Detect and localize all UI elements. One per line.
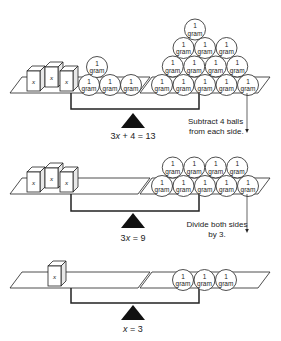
ball-label-number: 1 [203,41,207,48]
gram-ball: 1gram [205,56,226,77]
ball-label-number: 1 [182,78,186,85]
ball-label-unit: gram [187,67,202,75]
gram-ball: 1gram [195,176,216,197]
scale-stage-3: x1gram1gram1gram [10,261,270,320]
ball-label-unit: gram [176,85,191,93]
ball-label-unit: gram [197,280,212,288]
equation-stage-2: 3x = 9 [93,233,173,243]
gram-ball: 1gram [227,56,248,77]
equation-stage-3: x = 3 [93,324,173,334]
ball-label-number: 1 [160,179,164,186]
gram-ball: 1gram [184,157,205,178]
diagram-canvas: xxx1gram1gram1gram1gram1gram1gram1gram1g… [0,0,281,341]
gram-ball: 1gram [100,75,121,96]
gram-ball: 1gram [227,157,248,178]
ball-label-unit: gram [219,280,234,288]
ball-label-unit: gram [103,85,118,93]
ball-label-unit: gram [165,67,180,75]
eq3-rest: = 3 [128,324,143,334]
ball-label-number: 1 [224,273,228,280]
step1-line2: from each side. [188,127,244,137]
gram-ball: 1gram [216,176,237,197]
scale-beam [71,194,199,211]
ball-label-number: 1 [95,60,99,67]
ball-label-unit: gram [219,48,234,56]
ball-label-unit: gram [208,168,223,176]
gram-ball: 1gram [173,38,194,59]
balance-scale-diagram: xxx1gram1gram1gram1gram1gram1gram1gram1g… [0,0,281,341]
ball-label-unit: gram [230,67,245,75]
ball-label-unit: gram [176,48,191,56]
gram-ball: 1gram [195,38,216,59]
left-pan [10,272,150,288]
ball-label-number: 1 [225,41,229,48]
ball-label-unit: gram [198,85,213,93]
ball-label-number: 1 [182,41,186,48]
ball-label-unit: gram [241,85,256,93]
ball-label-unit: gram [230,168,245,176]
gram-ball: 1gram [162,157,183,178]
ball-label-number: 1 [171,59,175,66]
gram-ball: 1gram [184,56,205,77]
gram-ball: 1gram [152,176,173,197]
ball-label-number: 1 [160,78,164,85]
gram-ball: 1gram [216,75,237,96]
gram-ball: 1gram [195,75,216,96]
x-box: x [60,167,78,192]
box-side [73,167,78,192]
ball-label-unit: gram [188,30,203,38]
step-note-subtract: Subtract 4 balls from each side. [188,117,244,137]
gram-ball: 1gram [205,157,226,178]
ball-label-unit: gram [155,85,170,93]
scale-stage-1: xxx1gram1gram1gram1gram1gram1gram1gram1g… [10,19,270,133]
ball-label-number: 1 [203,78,207,85]
fulcrum-triangle [121,305,145,320]
ball-label-number: 1 [129,78,133,85]
ball-label-unit: gram [198,48,213,56]
ball-label-number: 1 [246,179,250,186]
gram-ball: 1gram [194,270,215,291]
step2-line1: Divide both sides [185,220,249,230]
ball-label-number: 1 [235,160,239,167]
ball-label-unit: gram [176,280,191,288]
ball-label-unit: gram [241,186,256,194]
gram-ball: 1gram [216,270,237,291]
gram-ball: 1gram [162,56,183,77]
ball-label-number: 1 [246,78,250,85]
ball-label-unit: gram [90,67,105,75]
box-side [61,261,66,286]
ball-label-unit: gram [176,186,191,194]
x-box: x [48,261,66,286]
ball-label-unit: gram [165,168,180,176]
arrow-down-icon [245,129,249,133]
gram-ball: 1gram [152,75,173,96]
x-box: x [27,167,45,192]
box-side [73,66,78,91]
ball-label-unit: gram [219,186,234,194]
x-box: x [60,66,78,91]
gram-ball: 1gram [185,19,206,40]
box-side [40,167,45,192]
x-box: x [27,66,45,91]
ball-label-number: 1 [214,59,218,66]
ball-label-unit: gram [219,85,234,93]
ball-label-number: 1 [225,179,229,186]
fulcrum-triangle [121,213,145,228]
ball-label-number: 1 [192,160,196,167]
ball-label-number: 1 [108,78,112,85]
ball-label-unit: gram [187,168,202,176]
equation-stage-1: 3x + 4 = 13 [93,131,173,141]
ball-label-unit: gram [208,67,223,75]
eq2-rest: = 9 [130,233,145,243]
gram-ball: 1gram [121,75,142,96]
ball-label-unit: gram [198,186,213,194]
step-note-divide: Divide both sides by 3. [185,220,249,240]
step1-line1: Subtract 4 balls [188,117,244,127]
ball-label-number: 1 [193,22,197,29]
ball-label-unit: gram [124,85,139,93]
ball-label-number: 1 [225,78,229,85]
gram-ball: 1gram [238,176,259,197]
gram-ball: 1gram [216,38,237,59]
ball-label-number: 1 [192,59,196,66]
gram-ball: 1gram [173,270,194,291]
